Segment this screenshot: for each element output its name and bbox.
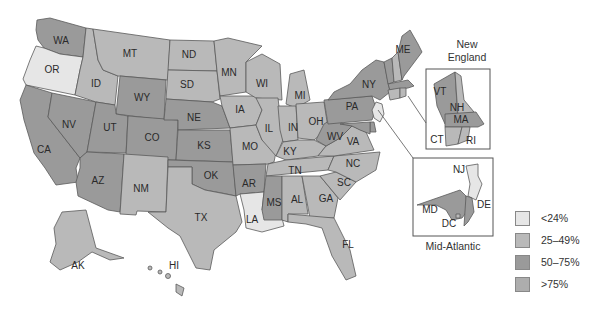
label-NY: NY xyxy=(362,79,376,90)
label-LA: LA xyxy=(246,214,259,225)
states-layer xyxy=(20,18,422,296)
label-SD: SD xyxy=(180,79,194,90)
label-CA: CA xyxy=(37,144,51,155)
inset-title: Mid-Atlantic xyxy=(426,240,481,252)
inset-title-line1: New xyxy=(456,38,477,50)
label-NM: NM xyxy=(133,183,149,194)
label-WV: WV xyxy=(327,131,343,142)
label-DE: DE xyxy=(477,199,491,210)
label-CO: CO xyxy=(145,132,160,143)
label-IN: IN xyxy=(288,122,298,133)
label-ND: ND xyxy=(182,49,196,60)
label-SC: SC xyxy=(337,177,351,188)
legend-label: <24% xyxy=(541,212,568,224)
legend-swatch xyxy=(515,233,530,248)
label-PA: PA xyxy=(346,101,359,112)
label-WY: WY xyxy=(134,92,150,103)
label-MI: MI xyxy=(294,90,305,101)
inset-title-line2: England xyxy=(448,51,487,63)
label-VT: VT xyxy=(434,86,447,97)
legend-label: 50–75% xyxy=(541,256,580,268)
label-NH: NH xyxy=(450,102,464,113)
legend-item-lt24: <24% xyxy=(515,207,580,229)
label-UT: UT xyxy=(103,122,116,133)
label-FL: FL xyxy=(342,239,354,250)
state-DE[interactable] xyxy=(370,122,376,132)
label-MS: MS xyxy=(267,197,282,208)
state-CT[interactable] xyxy=(388,88,400,100)
label-NE: NE xyxy=(187,112,201,123)
state-ME[interactable] xyxy=(398,30,422,80)
legend-item-gt75: >75% xyxy=(515,273,580,295)
legend-swatch xyxy=(515,277,530,292)
state-NY[interactable] xyxy=(328,60,390,100)
label-IL: IL xyxy=(265,123,274,134)
legend-swatch xyxy=(515,255,530,270)
label-AL: AL xyxy=(291,194,304,205)
label-TN: TN xyxy=(288,165,301,176)
label-OR: OR xyxy=(45,64,60,75)
label-NC: NC xyxy=(346,158,360,169)
label-WA: WA xyxy=(53,35,69,46)
label-OK: OK xyxy=(204,170,219,181)
label-ME: ME xyxy=(396,44,411,55)
label-KY: KY xyxy=(283,146,297,157)
inset-DC[interactable] xyxy=(456,214,460,218)
label-VA: VA xyxy=(347,136,360,147)
label-GA: GA xyxy=(319,193,334,204)
label-MD: MD xyxy=(422,204,438,215)
state-AK[interactable] xyxy=(50,210,124,270)
label-IA: IA xyxy=(235,104,245,115)
label-AK: AK xyxy=(71,260,85,271)
label-ID: ID xyxy=(91,78,101,89)
legend-label: 25–49% xyxy=(541,234,580,246)
legend-item-25-49: 25–49% xyxy=(515,229,580,251)
label-OH: OH xyxy=(309,116,324,127)
label-MN: MN xyxy=(221,67,237,78)
label-WI: WI xyxy=(256,78,268,89)
legend-swatch xyxy=(515,211,530,226)
label-CT: CT xyxy=(430,134,443,145)
label-HI: HI xyxy=(169,260,179,271)
label-MO: MO xyxy=(242,141,258,152)
legend: <24% 25–49% 50–75% >75% xyxy=(515,207,580,295)
label-MA: MA xyxy=(454,114,469,125)
us-choropleth-map: New England Mid-Atlantic WA OR CA NV ID … xyxy=(0,0,593,309)
legend-item-50-75: 50–75% xyxy=(515,251,580,273)
label-AZ: AZ xyxy=(92,175,105,186)
label-NV: NV xyxy=(62,119,76,130)
label-AR: AR xyxy=(242,178,256,189)
label-MT: MT xyxy=(123,48,137,59)
label-DC: DC xyxy=(442,218,456,229)
label-NJ: NJ xyxy=(453,164,465,175)
label-RI: RI xyxy=(466,135,476,146)
label-TX: TX xyxy=(195,212,208,223)
legend-label: >75% xyxy=(541,278,568,290)
label-KS: KS xyxy=(197,140,211,151)
state-RI[interactable] xyxy=(400,88,406,98)
